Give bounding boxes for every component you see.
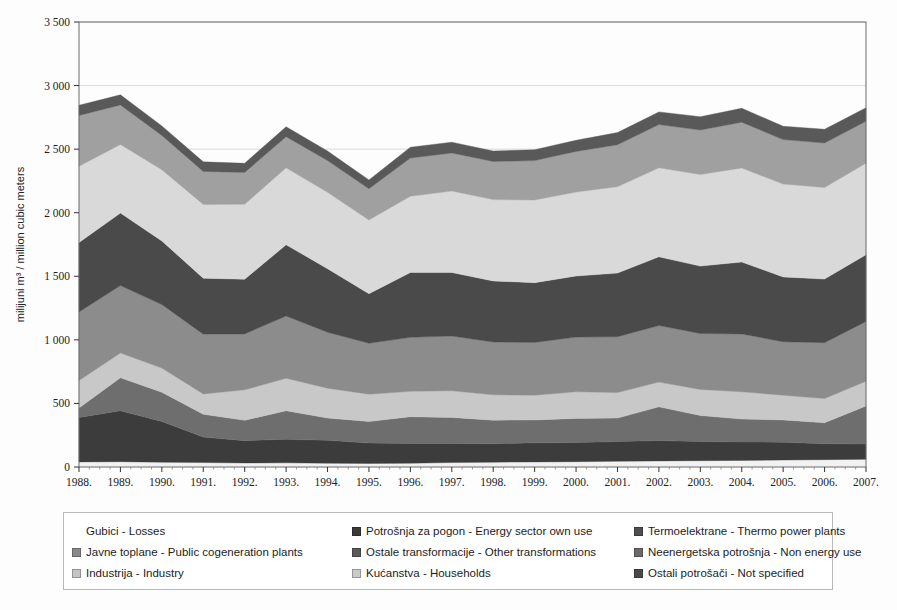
legend-item-label: Neenergetska potrošnja - Non energy use [648,546,862,559]
x-tick-label: 1990. [149,476,175,488]
legend-item-label: Industrija - Industry [86,567,184,580]
legend-item[interactable]: Potrošnja za pogon - Energy sector own u… [352,525,634,538]
legend-item[interactable]: Industrija - Industry [72,567,352,580]
legend-swatch-icon [352,569,361,578]
x-tick-label: 2005. [770,476,796,488]
x-tick-label: 1992. [232,476,258,488]
x-tick-label: 2000. [563,476,589,488]
area-series-group [79,95,866,467]
y-axis-label: milijuni m³ / million cubic meters [14,166,26,322]
y-tick-label: 2 000 [44,207,70,219]
legend-item-label: Kućanstva - Households [366,567,491,580]
x-tick-label: 2006. [812,476,838,488]
x-tick-label: 1991. [190,476,216,488]
y-tick-label: 0 [64,461,70,473]
x-tick-label: 1997. [439,476,465,488]
x-tick-label: 1995. [356,476,382,488]
x-tick-label: 1989. [107,476,133,488]
legend-item-label: Javne toplane - Public cogeneration plan… [86,546,303,559]
legend-item[interactable]: Gubici - Losses [72,525,352,538]
legend-swatch-icon [352,548,361,557]
chart-page: 05001 0001 5002 0002 5003 0003 500 1988.… [0,0,897,610]
y-tick-label: 1 000 [44,334,70,346]
legend-item[interactable]: Termoelektrane - Thermo power plants [634,525,834,538]
legend-swatch-icon [72,569,81,578]
chart-svg: 05001 0001 5002 0002 5003 0003 500 1988.… [0,0,897,505]
x-tick-label: 1993. [273,476,299,488]
y-axis-ticks: 05001 0001 5002 0002 5003 0003 500 [44,16,79,473]
legend-item[interactable]: Kućanstva - Households [352,567,634,580]
y-tick-label: 1 500 [44,270,70,282]
y-axis-title: milijuni m³ / million cubic meters [14,166,26,322]
chart-legend: Gubici - LossesPotrošnja za pogon - Ener… [63,512,833,590]
x-tick-label: 2001. [605,476,631,488]
legend-item-label: Ostale transformacije - Other transforma… [366,546,596,559]
legend-item-label: Gubici - Losses [86,525,165,538]
legend-swatch-icon [634,569,643,578]
x-axis-ticks: 1988.1989.1990.1991.1992.1993.1994.1995.… [66,467,879,488]
y-tick-label: 500 [53,397,71,409]
y-tick-label: 3 500 [44,16,70,28]
x-tick-label: 2004. [729,476,755,488]
legend-swatch-icon [72,548,81,557]
legend-item-label: Ostali potrošači - Not specified [648,567,804,580]
x-tick-label: 2003. [687,476,713,488]
y-tick-label: 2 500 [44,143,70,155]
x-tick-label: 1994. [315,476,341,488]
x-tick-label: 2007. [853,476,879,488]
legend-item[interactable]: Ostali potrošači - Not specified [634,567,834,580]
legend-item[interactable]: Ostale transformacije - Other transforma… [352,546,634,559]
legend-swatch-icon [352,527,361,536]
x-tick-label: 2002. [646,476,672,488]
legend-swatch-icon [72,527,81,536]
legend-item-label: Termoelektrane - Thermo power plants [648,525,845,538]
x-tick-label: 1998. [480,476,506,488]
legend-swatch-icon [634,548,643,557]
x-tick-label: 1988. [66,476,92,488]
y-tick-label: 3 000 [44,80,70,92]
stacked-area-chart: 05001 0001 5002 0002 5003 0003 500 1988.… [0,0,897,505]
x-tick-label: 1999. [522,476,548,488]
x-tick-label: 1996. [397,476,423,488]
legend-swatch-icon [634,527,643,536]
legend-item[interactable]: Javne toplane - Public cogeneration plan… [72,546,352,559]
legend-item-label: Potrošnja za pogon - Energy sector own u… [366,525,592,538]
legend-item[interactable]: Neenergetska potrošnja - Non energy use [634,546,834,559]
